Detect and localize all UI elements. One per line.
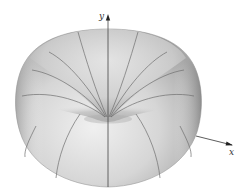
- x-axis: [196, 136, 233, 146]
- y-axis-label: y: [99, 12, 104, 21]
- x-axis-label: x: [229, 148, 234, 157]
- surface-figure: [0, 0, 248, 195]
